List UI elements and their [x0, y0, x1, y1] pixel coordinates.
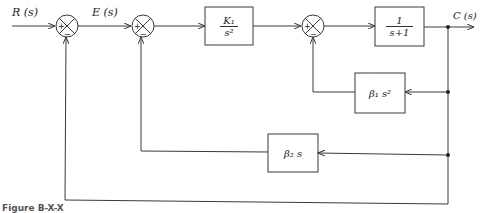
middle-feedback-line: [141, 37, 268, 152]
inner-feedback-line: [313, 37, 355, 92]
figure-caption: Figure B-X-X: [2, 203, 64, 213]
block-k1-over-s2-content: K₁ s²: [205, 7, 253, 45]
branch-point-beta2: [446, 153, 450, 157]
branch-point-output: [446, 25, 450, 29]
plant-denominator: s+1: [386, 26, 414, 38]
sum3-minus-sign: −: [310, 30, 317, 39]
block-beta1-s2-label: β₁ s²: [355, 73, 405, 113]
k1-denominator: s²: [220, 26, 237, 38]
branch-point-beta1: [446, 90, 450, 94]
plant-numerator: 1: [392, 15, 406, 26]
k1-numerator: K₁: [219, 15, 238, 26]
block-beta2-s-label: β₂ s: [268, 134, 318, 172]
input-label-r-of-s: R (s): [12, 6, 38, 19]
block-plant-content: 1 s+1: [375, 7, 424, 46]
sum1-minus-sign: −: [64, 30, 71, 39]
sum2-minus-sign: −: [140, 30, 147, 39]
error-label-e-of-s: E (s): [92, 6, 118, 19]
output-label-c-of-s: C (s): [453, 10, 477, 21]
unity-feedback-line: [65, 37, 448, 204]
